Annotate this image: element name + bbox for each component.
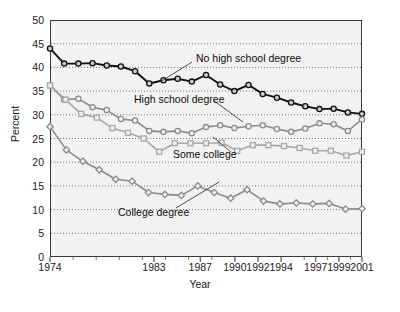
data-point [96,167,102,173]
x-axis-label: Year [0,278,400,290]
data-point [250,143,255,148]
data-point [90,105,95,110]
data-point [161,129,166,134]
x-tick-label: 1997 [304,261,327,273]
x-tick-label: 1990 [223,261,246,273]
data-point [232,125,237,130]
data-point [331,106,336,111]
data-point [147,81,152,86]
data-point [303,126,308,131]
data-point [345,128,350,133]
data-point [313,148,318,153]
data-point [260,91,265,96]
data-point [110,126,115,131]
annotation-no-high-school-degree: No high school degree [196,52,301,64]
data-point [189,79,194,84]
data-point [317,107,322,112]
data-point [288,100,293,105]
data-point [218,82,223,87]
data-point [274,126,279,131]
data-point [62,61,67,66]
data-point [203,72,208,77]
data-point [147,128,152,133]
data-point [345,110,350,115]
data-point [126,130,131,135]
data-point [118,64,123,69]
data-point [266,143,271,148]
data-point [76,61,81,66]
x-tick-label: 1992 [246,261,269,273]
data-point [112,176,118,182]
data-point [277,201,283,207]
data-point [288,129,293,134]
data-point [293,200,299,206]
data-point [342,206,348,212]
data-point [141,136,146,141]
data-point [211,189,217,195]
x-tick-label: 1983 [142,261,165,273]
data-point [175,76,180,81]
data-point [203,125,208,130]
data-point [63,97,68,102]
data-point [90,61,95,66]
data-point [274,95,279,100]
annotation-high-school-degree: High school degree [134,93,224,105]
data-point [47,46,52,51]
x-tick-label: 2001 [350,261,373,273]
data-point [303,104,308,109]
data-point [204,141,209,146]
data-point [132,69,137,74]
data-point [360,149,365,154]
data-point [344,153,349,158]
data-point [359,111,364,116]
data-point [172,141,177,146]
data-point [178,192,184,198]
series-line-3 [50,127,362,210]
data-point [157,149,162,154]
data-point [94,115,99,120]
data-point [232,89,237,94]
data-point [282,144,287,149]
data-point [162,191,168,197]
data-point [188,141,193,146]
data-point [195,183,201,189]
data-point [326,200,332,206]
data-point [359,117,364,122]
data-point [104,63,109,68]
data-point [48,83,53,88]
data-point [189,131,194,136]
data-point [132,118,137,123]
x-tick-label: 1974 [38,261,61,273]
data-point [79,111,84,116]
annotation-college-degree: College degree [118,206,189,218]
data-point [317,121,322,126]
data-point [246,124,251,129]
data-point [246,82,251,87]
data-point [218,123,223,128]
x-tick-label: 1999 [327,261,350,273]
data-point [328,148,333,153]
annotation-some-college: Some college [173,148,237,160]
chart-container: Percent 05101520253035404550 19741983198… [0,0,400,312]
data-point [104,107,109,112]
data-point [227,195,233,201]
x-tick-label: 1994 [269,261,292,273]
data-point [331,122,336,127]
data-point [175,128,180,133]
data-point [76,96,81,101]
x-tick-label: 1987 [189,261,212,273]
data-point [297,145,302,150]
data-point [359,205,365,211]
data-point [118,116,123,121]
data-point [310,201,316,207]
data-point [260,123,265,128]
